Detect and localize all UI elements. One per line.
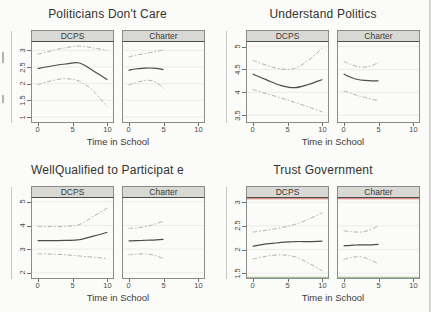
mean-line [253, 241, 323, 246]
x-axis: 0510 [31, 279, 114, 291]
panel-header-label: Charter [149, 187, 177, 197]
subpanel-charter: Charter 0510 [337, 30, 420, 135]
x-tick-label: 5 [70, 281, 74, 290]
x-tick-label: 10 [103, 281, 111, 290]
plot-area [31, 42, 114, 123]
y-tick-label: 1.5 [18, 92, 27, 108]
ci-upper-line [253, 213, 323, 232]
ci-upper-line [38, 208, 108, 227]
chart-politicians-dont-care: Politicians Don't Care 11.522.53 DCPS 05… [0, 0, 215, 156]
mean-line [129, 68, 164, 70]
y-axis: 2345 [11, 198, 31, 278]
ci-upper-line [253, 48, 323, 70]
mean-line [38, 232, 108, 240]
chart-title: Politicians Don't Care [0, 7, 215, 21]
ci-lower-line [253, 255, 323, 271]
y-tick-label: 2 [18, 265, 27, 281]
panel-header: Charter [122, 186, 205, 198]
y-tick-label: 2.5 [233, 218, 242, 234]
subpanel-charter: Charter 0510 [122, 186, 205, 291]
x-tick-label: 5 [376, 281, 380, 290]
ci-lower-line [253, 90, 323, 112]
panel-header-label: DCPS [61, 187, 85, 197]
ci-lower-line [344, 257, 379, 264]
subpanel-dcps: DCPS 0510 [246, 186, 329, 291]
x-tick-label: 0 [36, 281, 40, 290]
subpanel-charter: Charter 0510 [337, 186, 420, 291]
x-tick-label: 10 [409, 125, 417, 134]
panel-header: Charter [122, 30, 205, 42]
x-axis-title: Time in School [31, 136, 205, 147]
plot-area [246, 42, 329, 123]
panel-header-label: Charter [364, 31, 392, 41]
panel-header-label: Charter [364, 187, 392, 197]
x-tick-label: 0 [36, 125, 40, 134]
scan-artifact [2, 95, 4, 103]
x-axis: 0510 [122, 123, 205, 135]
mean-line [344, 74, 379, 81]
subpanel-dcps: DCPS 0510 [246, 30, 329, 135]
subpanel-dcps: DCPS 0510 [31, 30, 114, 135]
ci-upper-line [129, 221, 164, 228]
ci-lower-line [38, 254, 108, 259]
mean-line [38, 63, 108, 80]
y-tick-label: 5 [18, 194, 27, 210]
plot-area [122, 198, 205, 279]
y-axis: 11.522.53 [11, 42, 31, 122]
x-tick-label: 0 [342, 125, 346, 134]
ci-upper-line [129, 50, 164, 57]
panel-header: Charter [337, 30, 420, 42]
y-tick-label: 3.5 [233, 107, 242, 123]
x-tick-label: 10 [409, 281, 417, 290]
chart-wellqualified-to-participate: WellQualified to Participat e 2345 DCPS … [0, 156, 215, 312]
chart-title: Trust Government [215, 163, 431, 177]
x-tick-label: 5 [161, 281, 165, 290]
plot-area [337, 198, 420, 279]
plot-area [122, 42, 205, 123]
chart-understand-politics: Understand Politics 3.544.55 DCPS 0510 C… [215, 0, 431, 156]
plot-area [246, 198, 329, 279]
y-axis: 1.522.53 [226, 198, 246, 278]
mean-line [129, 239, 164, 240]
panel-header: Charter [337, 186, 420, 198]
x-tick-label: 10 [194, 281, 202, 290]
x-tick-label: 10 [318, 125, 326, 134]
scan-artifact [2, 52, 4, 63]
y-tick-label: 3 [233, 194, 242, 210]
x-axis: 0510 [246, 279, 329, 291]
x-tick-label: 0 [251, 125, 255, 134]
chart-trust-government: Trust Government 1.522.53 DCPS 0510 Char… [215, 156, 431, 312]
ci-lower-line [129, 80, 164, 88]
y-axis: 3.544.55 [226, 42, 246, 122]
x-axis-title: Time in School [31, 292, 205, 303]
y-tick-label: 3 [18, 42, 27, 58]
x-tick-label: 5 [285, 281, 289, 290]
x-tick-label: 0 [127, 281, 131, 290]
y-tick-label: 4.5 [233, 61, 242, 77]
panel-header: DCPS [31, 186, 114, 198]
y-tick-label: 4 [18, 218, 27, 234]
y-tick-label: 4 [233, 84, 242, 100]
panel-header-label: Charter [149, 31, 177, 41]
subpanel-charter: Charter 0510 [122, 30, 205, 135]
y-tick-label: 2.5 [18, 59, 27, 75]
ci-lower-line [38, 79, 108, 107]
x-axis: 0510 [337, 279, 420, 291]
x-tick-label: 0 [342, 281, 346, 290]
y-tick-label: 2 [233, 242, 242, 258]
y-tick-label: 3 [18, 241, 27, 257]
x-axis-title: Time in School [246, 292, 420, 303]
subpanel-dcps: DCPS 0510 [31, 186, 114, 291]
x-tick-label: 10 [194, 125, 202, 134]
chart-title: Understand Politics [215, 7, 431, 21]
chart-title: WellQualified to Participat e [0, 163, 215, 177]
x-tick-label: 5 [285, 125, 289, 134]
x-axis: 0510 [337, 123, 420, 135]
y-tick-label: 1 [18, 109, 27, 125]
ci-lower-line [129, 254, 164, 259]
x-axis: 0510 [31, 123, 114, 135]
x-tick-label: 5 [70, 125, 74, 134]
mean-line [344, 244, 379, 245]
panel-header: DCPS [246, 186, 329, 198]
x-axis-title: Time in School [246, 136, 420, 147]
